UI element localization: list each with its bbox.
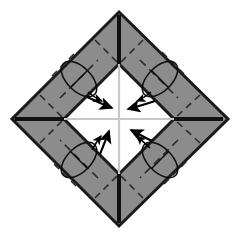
origami-figure [0, 0, 240, 238]
origami-diagram-container [0, 0, 240, 238]
